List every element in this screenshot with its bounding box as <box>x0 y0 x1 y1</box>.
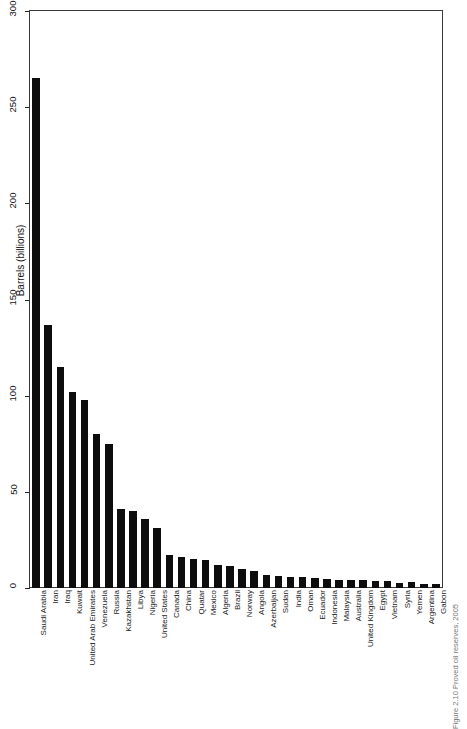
bar <box>238 569 246 588</box>
x-axis-label: Australia <box>354 590 363 621</box>
bar <box>408 582 416 588</box>
bar <box>105 444 113 588</box>
bar <box>287 577 295 588</box>
bar <box>347 580 355 588</box>
bar <box>178 557 186 588</box>
bar <box>141 519 149 588</box>
y-tick-label-text: 150 <box>7 289 18 305</box>
y-tick-label: 100 <box>0 388 26 399</box>
bar <box>275 576 283 588</box>
y-tick-label: 50 <box>0 484 26 495</box>
y-tick-label: 150 <box>0 292 26 303</box>
x-axis-label: Azerbaijan <box>269 590 278 628</box>
x-axis-label: Saudi Arabia <box>39 590 48 635</box>
x-axis-label: Gabon <box>439 590 448 614</box>
y-tick-label: 0 <box>0 580 26 591</box>
x-axis-label: Yemen <box>415 590 424 615</box>
x-axis-label: Quatar <box>197 590 206 614</box>
bar <box>384 581 392 588</box>
bar <box>44 325 52 588</box>
x-axis-label: Argentina <box>427 590 436 624</box>
x-axis-label: Indonesia <box>330 590 339 625</box>
bar <box>93 434 101 588</box>
bar <box>359 580 367 588</box>
bar <box>69 392 77 588</box>
x-axis-label: Ecuador <box>318 590 327 620</box>
x-axis-label: Nigeria <box>148 590 157 615</box>
x-axis-label: Vietnam <box>390 590 399 619</box>
x-axis-label: United Kingdom <box>366 590 375 647</box>
x-axis-label: Kazakhstan <box>124 590 133 632</box>
y-tick-label-text: 50 <box>7 484 18 495</box>
x-axis-label: China <box>184 590 193 611</box>
x-axis-label: Malaysia <box>342 590 351 622</box>
y-tick-label-text: 100 <box>7 385 18 401</box>
x-axis-label: Canada <box>172 590 181 618</box>
x-axis-label: Angola <box>257 590 266 615</box>
y-tick-label-text: 300 <box>7 1 18 17</box>
bar <box>153 528 161 588</box>
x-axis-label: Russia <box>112 590 121 614</box>
figure-caption: Figure 2.10 Proved oil reserves, 2005 <box>451 604 460 729</box>
x-axis-label: Venezuela <box>100 590 109 627</box>
bar <box>372 581 380 588</box>
x-axis-label: Brazil <box>233 590 242 610</box>
x-axis-label: Oman <box>306 590 315 612</box>
bar <box>432 584 440 588</box>
y-tick-label: 300 <box>0 3 26 14</box>
x-axis-label: United Arab Emirates <box>88 590 97 666</box>
y-tick-label: 200 <box>0 195 26 206</box>
x-axis-label: Libya <box>136 590 145 609</box>
x-axis-label: Kuwait <box>75 590 84 614</box>
y-tick-label-text: 0 <box>7 583 18 588</box>
bar <box>226 566 234 588</box>
x-axis-label: Egypt <box>378 590 387 610</box>
x-axis-label: Algeria <box>221 590 230 615</box>
bar <box>396 583 404 588</box>
bar <box>32 78 40 588</box>
y-tick-label-text: 250 <box>7 97 18 113</box>
bar <box>57 367 65 588</box>
bar <box>202 560 210 588</box>
bar <box>81 400 89 588</box>
bar <box>299 577 307 588</box>
y-tick-label-text: 200 <box>7 193 18 209</box>
x-axis-label: India <box>294 590 303 607</box>
x-axis-label: Syria <box>403 590 412 608</box>
bar <box>323 579 331 588</box>
x-axis-label: Iran <box>51 590 60 604</box>
bar <box>190 559 198 588</box>
x-axis-label: Mexico <box>209 590 218 615</box>
x-axis-label: Iraq <box>63 590 72 604</box>
bar <box>263 575 271 588</box>
bar <box>250 571 258 588</box>
bar <box>311 578 319 588</box>
bar <box>335 580 343 588</box>
x-axis-label: Norway <box>245 590 254 617</box>
y-tick-label: 250 <box>0 99 26 110</box>
x-axis-label: United States <box>160 590 169 638</box>
bar <box>214 565 222 588</box>
bar <box>166 555 174 588</box>
bar <box>129 511 137 588</box>
x-axis-label: Sudan <box>281 590 290 613</box>
bars-layer <box>30 11 442 588</box>
x-axis-category-labels: Saudi ArabiaIranIraqKuwaitUnited Arab Em… <box>30 590 442 682</box>
bar <box>420 584 428 588</box>
bar <box>117 509 125 588</box>
